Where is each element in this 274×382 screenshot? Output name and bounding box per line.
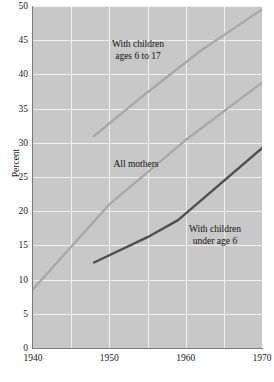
y-tick-label: 5	[4, 309, 28, 319]
y-tick-label: 15	[4, 240, 28, 250]
y-tick-label: 40	[4, 69, 28, 79]
x-tick-label: 1940	[13, 353, 53, 364]
series-label-children-under-6: With children under age 6	[168, 224, 262, 247]
x-tick-label: 1950	[89, 353, 129, 364]
series-label-children-6-to-17: With children ages 6 to 17	[92, 39, 184, 62]
y-axis-title: Percent	[11, 133, 21, 193]
chart-figure: 50 45 40 35 30 25 20 15 10 5 0 1940 1950…	[0, 0, 274, 382]
y-tick-label: 10	[4, 275, 28, 285]
x-tick-label: 1960	[166, 353, 206, 364]
series-line-all-mothers	[33, 83, 262, 290]
x-axis-line	[33, 348, 263, 349]
series-label-all-mothers: All mothers	[96, 159, 176, 171]
y-tick-label: 35	[4, 104, 28, 114]
x-tick-label: 1970	[242, 353, 274, 364]
y-tick-label: 50	[4, 1, 28, 11]
series-line-children-6-to-17	[94, 9, 262, 136]
y-axis-line	[32, 6, 33, 349]
y-tick-label: 0	[4, 343, 28, 353]
y-tick-label: 20	[4, 206, 28, 216]
y-tick-label: 45	[4, 35, 28, 45]
